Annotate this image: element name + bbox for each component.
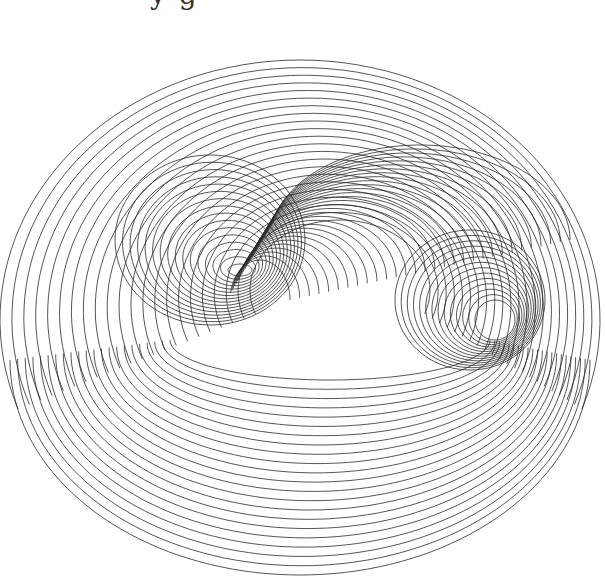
- line-art-illustration: [0, 0, 605, 577]
- outer-shells-curves: [0, 60, 600, 409]
- bottom-bowl-curves: [10, 340, 590, 575]
- right-spiral-curves: [395, 230, 545, 370]
